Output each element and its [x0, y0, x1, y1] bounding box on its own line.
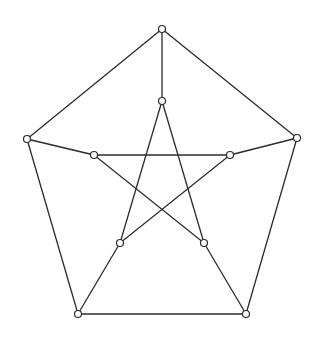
graph-edge-i3-i0 [120, 101, 162, 243]
graph-edges [27, 29, 297, 314]
graph-edge-o4-i4 [27, 139, 94, 155]
graph-node-o2 [243, 311, 250, 318]
graph-edge-o3-i3 [78, 243, 120, 314]
graph-node-i4 [91, 152, 98, 159]
graph-edge-i1-i3 [120, 155, 230, 243]
graph-node-o4 [24, 136, 31, 143]
graph-node-i0 [159, 98, 166, 105]
graph-edge-o1-i1 [230, 138, 297, 155]
petersen-graph-diagram [0, 0, 321, 339]
graph-edge-i0-i2 [162, 101, 204, 243]
graph-edge-o4-o0 [27, 29, 162, 139]
graph-node-o1 [294, 135, 301, 142]
graph-edge-o2-i2 [204, 243, 246, 314]
graph-edge-o3-o4 [27, 139, 78, 314]
graph-node-i1 [227, 152, 234, 159]
graph-edge-o1-o2 [246, 138, 297, 314]
graph-edge-i2-i4 [94, 155, 204, 243]
graph-edge-o0-o1 [162, 29, 297, 138]
graph-node-i2 [201, 240, 208, 247]
graph-node-i3 [117, 240, 124, 247]
graph-node-o3 [75, 311, 82, 318]
graph-node-o0 [159, 26, 166, 33]
